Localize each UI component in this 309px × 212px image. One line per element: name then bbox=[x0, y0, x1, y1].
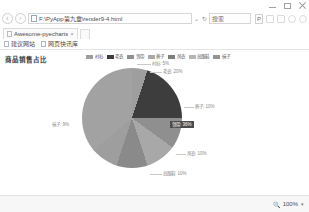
status-bar: 🔍 100% ▾ bbox=[0, 195, 309, 212]
favorites-bar: 建议网站 网页快讯库 bbox=[0, 39, 309, 50]
search-value: 搜索 bbox=[212, 15, 224, 23]
pie-slices bbox=[82, 68, 182, 168]
tab-title: Awesome-pyecharts bbox=[14, 30, 68, 38]
pie-label-4: 风衣: 10% bbox=[187, 151, 207, 156]
legend-item-4[interactable]: 风衣 bbox=[168, 54, 185, 59]
page-icon bbox=[31, 15, 37, 22]
chevron-down-icon[interactable]: ▾ bbox=[301, 201, 304, 207]
toolbar-icons: P bbox=[253, 14, 307, 24]
zoom-magnifier-icon: 🔍 bbox=[273, 201, 280, 208]
legend-label: 风衣 bbox=[177, 54, 185, 59]
leader-line bbox=[176, 154, 186, 155]
legend-swatch bbox=[107, 55, 114, 59]
pie-chart[interactable] bbox=[82, 68, 182, 168]
legend-swatch bbox=[213, 55, 220, 59]
maximize-button[interactable] bbox=[283, 2, 292, 10]
dropdown-icon[interactable]: ⌄ bbox=[194, 15, 199, 22]
home-icon[interactable] bbox=[266, 15, 274, 23]
search-input[interactable]: 搜索 bbox=[209, 13, 251, 24]
close-button[interactable] bbox=[298, 2, 307, 10]
chart-area: 衬衫: 5% 毛衣: 20% 裤子: 10% 领带: 36% 风衣: 10% 高… bbox=[0, 62, 309, 195]
legend-label: 袜子 bbox=[222, 54, 230, 59]
pie-label-6: 袜子: 9% bbox=[52, 122, 69, 127]
new-tab-button[interactable] bbox=[80, 29, 90, 39]
address-bar: ‹ › F:\PyApp第九章\render9-4.html ⌄ ↻ 搜索 P bbox=[0, 11, 309, 26]
legend-item-3[interactable]: 裤子 bbox=[148, 54, 165, 59]
pie-label-0: 衬衫: 5% bbox=[152, 61, 169, 66]
favorites-icon bbox=[4, 41, 9, 47]
favorites-label: 网页快讯库 bbox=[48, 41, 78, 48]
legend-label: 高跟鞋 bbox=[197, 54, 209, 59]
legend-item-0[interactable]: 衬衫 bbox=[86, 54, 103, 59]
search-provider-icon[interactable]: P bbox=[255, 14, 263, 24]
refresh-icon[interactable]: ↻ bbox=[202, 15, 207, 22]
tab-favicon bbox=[7, 31, 12, 37]
zoom-level[interactable]: 100% bbox=[283, 200, 298, 208]
leader-line bbox=[184, 107, 194, 108]
tab-awesome-pyecharts[interactable]: Awesome-pyecharts × bbox=[3, 28, 78, 39]
legend-item-1[interactable]: 毛衣 bbox=[107, 54, 124, 59]
pie-label-5: 高跟鞋: 10% bbox=[163, 171, 187, 176]
back-button[interactable]: ‹ bbox=[2, 13, 13, 24]
legend-label: 领带 bbox=[136, 54, 144, 59]
legend-item-2[interactable]: 领带 bbox=[127, 54, 144, 59]
minimize-button[interactable] bbox=[268, 2, 277, 10]
favorites-label: 建议网站 bbox=[11, 41, 35, 48]
legend-item-6[interactable]: 袜子 bbox=[213, 54, 230, 59]
tab-strip: Awesome-pyecharts × bbox=[0, 26, 309, 39]
url-text: F:\PyApp第九章\render9-4.html bbox=[39, 15, 189, 23]
leader-line bbox=[150, 174, 162, 175]
legend-label: 裤子 bbox=[156, 54, 164, 59]
legend-swatch bbox=[86, 55, 93, 59]
pie-label-highlighted[interactable]: 领带: 36% bbox=[170, 121, 194, 128]
leader-line bbox=[150, 72, 162, 73]
chart-legend: 衬衫 毛衣 领带 裤子 风衣 高跟鞋 bbox=[86, 54, 230, 59]
leader-line bbox=[137, 64, 151, 65]
url-input[interactable]: F:\PyApp第九章\render9-4.html bbox=[28, 13, 192, 24]
legend-swatch bbox=[148, 55, 155, 59]
legend-swatch bbox=[189, 55, 196, 59]
address-bar-actions: ⌄ ↻ bbox=[194, 15, 207, 22]
gear-icon[interactable] bbox=[288, 15, 296, 23]
legend-label: 毛衣 bbox=[115, 54, 123, 59]
pie-label-3: 裤子: 10% bbox=[195, 104, 215, 109]
forward-button[interactable]: › bbox=[15, 13, 26, 24]
browser-window: ‹ › F:\PyApp第九章\render9-4.html ⌄ ↻ 搜索 P … bbox=[0, 0, 309, 212]
favorites-item-0[interactable]: 建议网站 bbox=[4, 41, 35, 48]
legend-item-5[interactable]: 高跟鞋 bbox=[189, 54, 210, 59]
favorites-star-icon[interactable] bbox=[277, 15, 285, 23]
legend-swatch bbox=[127, 55, 134, 59]
page-content: 商品销售占比 衬衫 毛衣 领带 裤子 风衣 bbox=[0, 50, 309, 195]
favorites-icon bbox=[41, 41, 46, 47]
favorites-item-1[interactable]: 网页快讯库 bbox=[41, 41, 78, 48]
pie-label-1: 毛衣: 20% bbox=[163, 69, 183, 74]
title-bar bbox=[0, 0, 309, 11]
legend-swatch bbox=[168, 55, 175, 59]
legend-label: 衬衫 bbox=[95, 54, 103, 59]
tools-icon[interactable] bbox=[299, 15, 307, 23]
tab-close-icon[interactable]: × bbox=[70, 31, 74, 38]
